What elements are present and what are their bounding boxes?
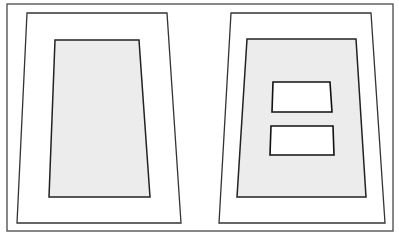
diagram-canvas	[0, 0, 399, 238]
left-panel	[17, 13, 181, 223]
left-shaded-area	[49, 40, 150, 197]
right-shaded-area	[237, 39, 366, 197]
lower-window	[270, 126, 334, 155]
right-panel	[219, 13, 385, 223]
upper-window	[272, 82, 332, 112]
